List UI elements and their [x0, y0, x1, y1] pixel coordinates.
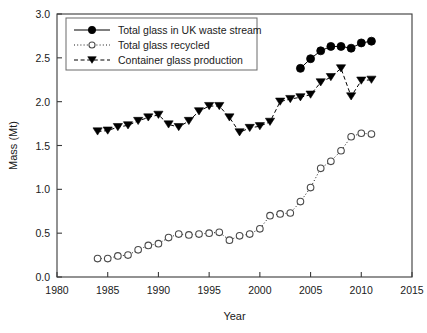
data-point-marker [348, 133, 355, 140]
data-point-marker [296, 64, 304, 72]
data-point-marker [368, 131, 375, 138]
x-tick-label: 2010 [350, 284, 374, 296]
data-point-marker [206, 230, 213, 237]
data-point-marker [267, 212, 274, 219]
data-point-marker [307, 184, 314, 191]
data-point-marker [297, 198, 304, 205]
x-tick-label: 1980 [45, 284, 69, 296]
y-axis-label: Mass (Mt) [7, 121, 19, 170]
data-point-marker [104, 255, 111, 262]
data-point-marker [317, 47, 325, 55]
data-point-marker [216, 229, 223, 236]
data-point-marker [338, 147, 345, 154]
data-point-marker [226, 237, 233, 244]
x-tick-label: 2000 [248, 284, 272, 296]
data-point-marker [246, 231, 253, 238]
data-point-marker [175, 231, 182, 238]
data-point-marker [135, 247, 142, 254]
y-tick-label: 0.0 [35, 271, 50, 283]
data-point-marker [317, 165, 324, 172]
data-point-marker [337, 42, 345, 50]
data-point-marker [367, 37, 375, 45]
x-tick-label: 1995 [197, 284, 221, 296]
data-point-marker [186, 232, 193, 239]
x-tick-label: 1985 [96, 284, 120, 296]
data-point-marker [307, 55, 315, 63]
chart-canvas: 19801985199019952000200520102015 0.00.51… [0, 0, 427, 333]
data-point-marker [357, 39, 365, 47]
y-tick-label: 1.0 [35, 183, 50, 195]
legend-entry-label: Container glass production [118, 54, 243, 66]
data-point-marker [88, 26, 95, 33]
y-tick-label: 2.0 [35, 96, 50, 108]
y-tick-label: 0.5 [35, 227, 50, 239]
figure-container: 19801985199019952000200520102015 0.00.51… [0, 0, 427, 333]
y-tick-label: 2.5 [35, 52, 50, 64]
data-point-marker [196, 231, 203, 238]
data-point-marker [155, 240, 162, 247]
data-point-marker [125, 252, 132, 259]
y-tick-label: 3.0 [35, 8, 50, 20]
data-point-marker [236, 232, 243, 239]
data-point-marker [257, 225, 264, 232]
data-point-marker [327, 42, 335, 50]
chart-legend: Total glass in UK waste streamTotal glas… [66, 18, 262, 70]
x-axis-label: Year [223, 310, 246, 322]
data-point-marker [145, 242, 152, 249]
legend-entry-label: Total glass recycled [118, 39, 210, 51]
data-point-marker [287, 210, 294, 217]
data-point-marker [94, 255, 101, 262]
x-tick-label: 2015 [400, 284, 424, 296]
data-point-marker [89, 42, 95, 48]
data-point-marker [358, 130, 365, 137]
x-tick-label: 1990 [147, 284, 171, 296]
data-point-marker [115, 253, 122, 260]
data-point-marker [328, 158, 335, 165]
data-point-marker [347, 44, 355, 52]
x-tick-label: 2005 [299, 284, 323, 296]
y-tick-label: 1.5 [35, 140, 50, 152]
data-point-marker [165, 234, 172, 241]
data-point-marker [277, 211, 284, 218]
legend-entry-label: Total glass in UK waste stream [118, 24, 262, 36]
